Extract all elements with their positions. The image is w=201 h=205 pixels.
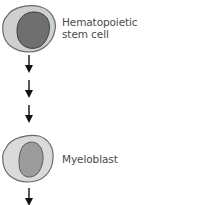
down-arrow-icon	[24, 105, 34, 123]
down-arrow-icon	[24, 80, 34, 98]
down-arrow-icon	[24, 188, 34, 205]
label-line: Hematopoietic	[62, 16, 138, 28]
label-line: stem cell	[62, 28, 138, 40]
myeloblast-label: Myeloblast	[62, 153, 118, 165]
myeloblast-illustration	[1, 132, 55, 184]
hematopoietic-stem-cell-illustration	[1, 2, 57, 54]
label-line: Myeloblast	[62, 153, 118, 165]
down-arrow-icon	[24, 55, 34, 73]
hematopoietic-stem-cell-label: Hematopoietic stem cell	[62, 16, 138, 40]
